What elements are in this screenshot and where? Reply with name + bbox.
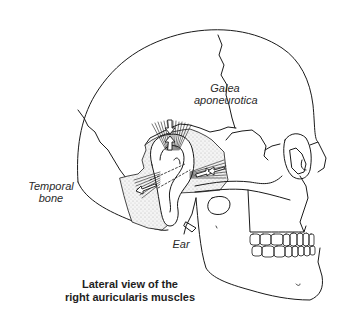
upper-teeth bbox=[250, 233, 314, 246]
label-galea-aponeurotica: Galea aponeurotica bbox=[194, 82, 256, 106]
earlobe bbox=[184, 222, 196, 232]
galea-line1: Galea bbox=[194, 82, 256, 94]
mandibular-condyle bbox=[208, 196, 230, 214]
caption-line1: Lateral view of the bbox=[40, 278, 220, 291]
caption-line2: right auricularis muscles bbox=[40, 291, 220, 304]
temporal-line1: Temporal bbox=[24, 180, 78, 192]
label-ear: Ear bbox=[166, 238, 196, 250]
temporal-line2: bone bbox=[24, 192, 78, 204]
zygomatic-arch bbox=[195, 189, 290, 200]
lower-teeth bbox=[252, 246, 315, 257]
diagram-caption: Lateral view of the right auricularis mu… bbox=[40, 278, 220, 304]
lambdoid-suture bbox=[78, 110, 126, 178]
nasal-bone bbox=[310, 142, 326, 172]
orbit bbox=[284, 134, 312, 179]
ear-text: Ear bbox=[166, 238, 196, 250]
label-temporal-bone: Temporal bone bbox=[24, 180, 78, 204]
sphenoid-suture bbox=[226, 130, 268, 160]
galea-line2: aponeurotica bbox=[194, 94, 256, 106]
